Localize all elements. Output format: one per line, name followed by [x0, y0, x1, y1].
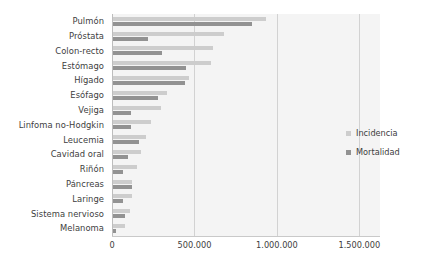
bar-incidencia [112, 17, 266, 21]
x-axis-tick-labels: 0500.0001.000.0001.500.000 [112, 240, 380, 254]
bar-row [112, 14, 380, 29]
x-tick-label: 0 [109, 240, 114, 250]
bar-incidencia [112, 209, 130, 213]
x-axis-line [112, 236, 380, 237]
bar-incidencia [112, 165, 137, 169]
bar-mortalidad [112, 51, 162, 55]
bar-incidencia [112, 46, 213, 50]
bar-row [112, 177, 380, 192]
category-label: Vejiga [0, 103, 108, 118]
bar-mortalidad [112, 37, 148, 41]
legend-label: Mortalidad [356, 147, 400, 157]
category-label: Cavidad oral [0, 147, 108, 162]
bar-row [112, 192, 380, 207]
bar-mortalidad [112, 140, 139, 144]
legend-swatch-icon [346, 150, 351, 155]
bar-mortalidad [112, 155, 128, 159]
category-label: Esófago [0, 88, 108, 103]
category-label: Riñón [0, 162, 108, 177]
bar-mortalidad [112, 170, 123, 174]
category-label: Melanoma [0, 221, 108, 236]
legend-item[interactable]: Mortalidad [346, 147, 400, 157]
bar-row [112, 44, 380, 59]
bar-incidencia [112, 150, 141, 154]
bar-row [112, 58, 380, 73]
category-label: Laringe [0, 192, 108, 207]
bar-row [112, 88, 380, 103]
category-label: Estómago [0, 58, 108, 73]
bar-row [112, 103, 380, 118]
bar-row [112, 118, 380, 133]
bar-rows [112, 14, 380, 236]
bar-incidencia [112, 194, 132, 198]
bar-mortalidad [112, 66, 186, 70]
category-label: Linfoma no-Hodgkin [0, 118, 108, 133]
bar-incidencia [112, 120, 151, 124]
bar-mortalidad [112, 125, 131, 129]
category-label: Sistema nervioso [0, 206, 108, 221]
x-tick-label: 1.500.000 [339, 240, 381, 250]
bar-row [112, 221, 380, 236]
bar-incidencia [112, 224, 125, 228]
bar-row [112, 132, 380, 147]
x-tick-label: 500.000 [178, 240, 212, 250]
bar-mortalidad [112, 185, 132, 189]
bar-incidencia [112, 76, 189, 80]
bar-incidencia [112, 32, 224, 36]
bar-mortalidad [112, 199, 123, 203]
bar-mortalidad [112, 214, 125, 218]
chart-legend: IncidenciaMortalidad [346, 128, 400, 157]
bar-mortalidad [112, 111, 131, 115]
category-label: Pulmón [0, 14, 108, 29]
bar-chart: PulmónPróstataColon-rectoEstómagoHígadoE… [0, 0, 425, 262]
bar-mortalidad [112, 96, 158, 100]
legend-swatch-icon [346, 131, 351, 136]
category-label: Próstata [0, 29, 108, 44]
category-label: Hígado [0, 73, 108, 88]
bar-incidencia [112, 61, 211, 65]
bar-incidencia [112, 91, 167, 95]
legend-item[interactable]: Incidencia [346, 128, 400, 138]
bar-row [112, 147, 380, 162]
category-label: Leucemia [0, 132, 108, 147]
x-tick-label: 1.000.000 [256, 240, 298, 250]
bar-row [112, 162, 380, 177]
category-axis-labels: PulmónPróstataColon-rectoEstómagoHígadoE… [0, 14, 108, 236]
plot-area [112, 14, 380, 236]
bar-incidencia [112, 180, 132, 184]
bar-mortalidad [112, 81, 185, 85]
bar-row [112, 206, 380, 221]
category-label: Colon-recto [0, 44, 108, 59]
category-label: Páncreas [0, 177, 108, 192]
bar-row [112, 73, 380, 88]
bar-mortalidad [112, 22, 252, 26]
y-axis-line [112, 14, 113, 236]
bar-incidencia [112, 135, 146, 139]
bar-incidencia [112, 106, 161, 110]
bar-row [112, 29, 380, 44]
legend-label: Incidencia [356, 128, 398, 138]
